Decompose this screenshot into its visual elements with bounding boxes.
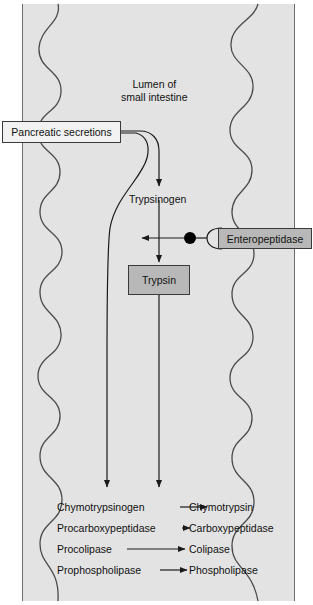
duct-to-zymogen-list: [107, 133, 148, 487]
lumen-label-line1: Lumen of: [121, 78, 188, 91]
reaction-product: Chymotrypsin: [189, 501, 253, 513]
reaction-row: Procolipase Colipase: [57, 540, 287, 561]
duct-to-trypsinogen: [121, 131, 159, 186]
reaction-substrate: Procarboxypeptidase: [57, 522, 156, 534]
trypsin-box: Trypsin: [128, 265, 190, 295]
reaction-substrate: Chymotrypsinogen: [57, 501, 145, 513]
enteropeptidase-box: Enteropeptidase: [218, 228, 312, 249]
reaction-row: Prophospholipase Phospholipase: [57, 561, 287, 582]
reaction-substrate: Procolipase: [57, 543, 112, 555]
reaction-substrate: Prophospholipase: [57, 564, 141, 576]
reaction-row: Chymotrypsinogen Chymotrypsin: [57, 498, 287, 519]
trypsinogen-label: Trypsinogen: [129, 193, 186, 206]
reaction-product: Phospholipase: [189, 564, 258, 576]
reaction-product: Carboxypeptidase: [189, 522, 274, 534]
pancreatic-secretions-box: Pancreatic secretions: [2, 121, 121, 143]
diagram-canvas: Lumen of small intestine Pancreatic secr…: [0, 0, 313, 605]
catalyst-dot: [184, 232, 196, 244]
lumen-label-line2: small intestine: [121, 91, 188, 104]
zymogen-activation-list: Chymotrypsinogen Chymotrypsin Procarboxy…: [57, 498, 287, 582]
lumen-label: Lumen of small intestine: [121, 78, 188, 104]
reaction-product: Colipase: [189, 543, 230, 555]
reaction-row: Procarboxypeptidase Carboxypeptidase: [57, 519, 287, 540]
